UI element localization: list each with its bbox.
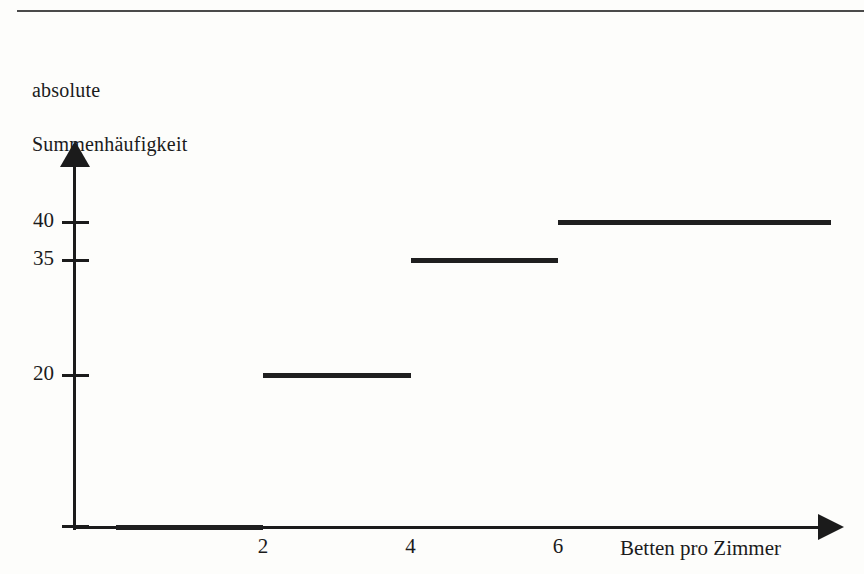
y-axis-tick-label-20: 20	[14, 363, 54, 384]
x-axis-tick-label-2: 2	[243, 534, 283, 558]
step-segment-35	[411, 258, 559, 263]
y-axis-arrow-icon	[60, 141, 90, 167]
y-axis-title-line2: Summenhäufigkeit	[32, 131, 187, 158]
y-axis-title: absolute Summenhäufigkeit	[32, 50, 187, 185]
y-axis-tick-35	[62, 259, 89, 262]
y-axis-tick-label-35: 35	[14, 248, 54, 269]
y-axis-title-line1: absolute	[32, 77, 187, 104]
x-axis-tick-label-4: 4	[391, 534, 431, 558]
step-segment-40	[558, 220, 831, 225]
step-segment-20	[263, 373, 411, 378]
y-axis-tick-label-40: 40	[14, 210, 54, 231]
y-axis-tick-40	[62, 221, 89, 224]
y-axis-line	[73, 160, 76, 530]
x-axis-tick-label-6: 6	[538, 534, 578, 558]
x-axis-arrow-icon	[818, 514, 844, 540]
y-axis-tick-origin	[62, 525, 89, 528]
header-rule	[17, 10, 864, 12]
step-segment-0	[116, 525, 264, 530]
figure-canvas: absolute Summenhäufigkeit 203540 246 Bet…	[0, 0, 864, 574]
y-axis-tick-20	[62, 374, 89, 377]
x-axis-title: Betten pro Zimmer	[620, 536, 781, 560]
